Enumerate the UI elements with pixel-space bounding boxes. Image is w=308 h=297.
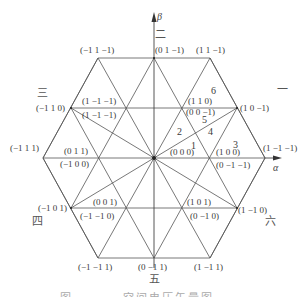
sector-label-6: 六 xyxy=(265,216,276,227)
vertex-label: (1 −1 −1) xyxy=(82,96,116,106)
vertex-label: (1 0 −1) xyxy=(240,103,269,113)
vertex-label: (1 0 0) xyxy=(216,147,240,157)
vertex-label: (−1 0 1) xyxy=(38,203,67,213)
vertex-label: (0 −1 1) xyxy=(138,262,167,272)
vertex-label: (1 −1 −1) xyxy=(82,110,116,120)
vertex-label: (−1 −1 1) xyxy=(78,262,112,272)
sector-label-3: 三 xyxy=(37,88,48,99)
vertex-label: (0 0 1) xyxy=(93,197,117,207)
vertex-label: (0 0 −1) xyxy=(186,107,215,117)
region-4: 4 xyxy=(208,127,213,137)
sector-label-4: 四 xyxy=(32,216,43,227)
vertex-label: (−1 −1 0) xyxy=(80,211,114,221)
vertex-label: (−1 1 −1) xyxy=(80,45,114,55)
vertex-label: (−1 0 0) xyxy=(60,159,89,169)
vertex-label: (0 −1 0) xyxy=(190,211,219,221)
alpha-axis-label: α xyxy=(273,162,278,173)
region-6: 6 xyxy=(211,86,216,96)
sector-label-5: 五 xyxy=(149,274,160,285)
space-vector-diagram xyxy=(0,0,308,297)
figure-caption: 图 ……… 空间电压矢量图 xyxy=(60,289,214,297)
vertex-label: (1 1 0) xyxy=(188,96,212,106)
beta-axis-label: β xyxy=(157,11,162,22)
vertex-label: (0 1 −1) xyxy=(155,45,184,55)
beta-arrow-icon xyxy=(152,12,157,22)
sector-label-1: 一 xyxy=(277,84,288,95)
vertex-label: (−1 1 1) xyxy=(10,143,39,153)
region-2: 2 xyxy=(177,127,182,137)
vertex-label: (1 −1 −1) xyxy=(263,143,297,153)
sector-label-2: 二 xyxy=(155,29,166,40)
vertex-label: (−1 1 0) xyxy=(36,103,65,113)
vertex-label: (1 1 −1) xyxy=(196,45,225,55)
vertex-label: (1 −1 1) xyxy=(194,262,223,272)
vertex-label: (0 1 1) xyxy=(64,146,88,156)
vertex-label: (0 −1 −1) xyxy=(216,160,250,170)
vertex-label: (1 −1 0) xyxy=(238,205,267,215)
vertex-label: (0 0 0) xyxy=(170,147,194,157)
vertex-label: (1 0 1) xyxy=(187,197,211,207)
alpha-arrow-icon xyxy=(273,156,282,161)
